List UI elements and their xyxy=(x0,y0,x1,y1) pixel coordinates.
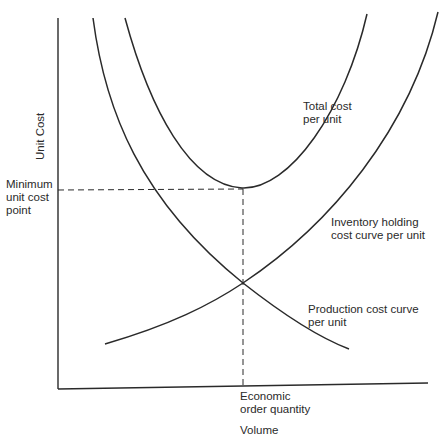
min-cost-label-line1: Minimum xyxy=(6,178,53,191)
min-cost-label-line3: point xyxy=(6,204,53,217)
x-axis-label: Volume xyxy=(240,424,278,437)
inventory-label-line1: Inventory holding xyxy=(331,216,425,229)
minimum-cost-dashed-line xyxy=(58,189,243,190)
eoq-label-line1: Economic xyxy=(240,390,310,403)
total-cost-label-line1: Total cost xyxy=(303,100,352,113)
inventory-label-line2: cost curve per unit xyxy=(331,229,425,242)
inventory-holding-cost-curve xyxy=(105,12,438,344)
total-cost-label: Total cost per unit xyxy=(303,100,352,126)
eoq-label-line2: order quantity xyxy=(240,403,310,416)
min-cost-label-line2: unit cost xyxy=(6,191,53,204)
production-label-line2: per unit xyxy=(308,316,419,329)
total-cost-label-line2: per unit xyxy=(303,113,352,126)
production-label-line1: Production cost curve xyxy=(308,303,419,316)
eoq-label: Economic order quantity xyxy=(240,390,310,416)
production-cost-label: Production cost curve per unit xyxy=(308,303,419,329)
y-axis-label: Unit Cost xyxy=(34,113,46,160)
minimum-unit-cost-label: Minimum unit cost point xyxy=(6,178,53,217)
inventory-holding-label: Inventory holding cost curve per unit xyxy=(331,216,425,242)
